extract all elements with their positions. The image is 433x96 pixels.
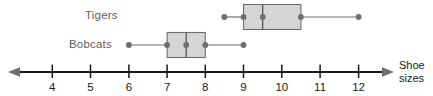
tick-label-5: 5 [87, 81, 93, 93]
axis-arrow-right [382, 67, 394, 77]
axis-title-line1: Shoe [399, 59, 425, 71]
marker-q1-tigers [241, 14, 247, 20]
tick-label-6: 6 [126, 81, 132, 93]
marker-max-tigers [356, 14, 362, 20]
number-line-axis: 4 5 6 7 8 9 10 11 12 Shoe sizes [8, 59, 425, 93]
marker-q3-bobcats [202, 42, 208, 48]
box-plot-figure: Tigers Bobcats [0, 0, 433, 96]
tick-label-4: 4 [49, 81, 56, 93]
marker-min-bobcats [126, 42, 132, 48]
box-plot-series-bobcats: Bobcats [69, 33, 246, 58]
marker-q3-tigers [298, 14, 304, 20]
tick-label-10: 10 [275, 81, 288, 93]
series-label-bobcats: Bobcats [69, 38, 112, 50]
marker-median-bobcats [183, 42, 189, 48]
box-tigers [244, 5, 301, 30]
marker-min-tigers [221, 14, 227, 20]
marker-median-tigers [260, 14, 266, 20]
tick-label-7: 7 [164, 81, 170, 93]
marker-max-bobcats [241, 42, 247, 48]
tick-label-8: 8 [202, 81, 208, 93]
series-label-tigers: Tigers [85, 9, 118, 21]
tick-label-9: 9 [240, 81, 246, 93]
marker-q1-bobcats [164, 42, 170, 48]
axis-arrow-left [8, 67, 20, 77]
axis-title-line2: sizes [399, 72, 425, 84]
tick-label-12: 12 [352, 81, 365, 93]
tick-label-11: 11 [314, 81, 326, 93]
box-plot-series-tigers: Tigers [85, 5, 362, 30]
axis-tick-labels: 4 5 6 7 8 9 10 11 12 [49, 81, 365, 93]
box-plot-svg: Tigers Bobcats [0, 0, 433, 96]
